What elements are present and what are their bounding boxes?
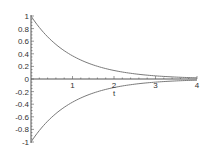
curve-upper xyxy=(31,16,197,78)
axes xyxy=(31,15,197,143)
x-axis-label: t xyxy=(113,89,116,98)
y-tick-label: -0.6 xyxy=(15,113,29,122)
y-tick-label: -0.8 xyxy=(15,125,29,134)
chart-plot: 10.80.60.40.20-0.2-0.4-0.6-0.8-11234t xyxy=(0,0,209,148)
x-tick-label: 4 xyxy=(195,81,200,90)
y-tick-label: 1 xyxy=(25,12,30,21)
y-tick-label: 0.8 xyxy=(18,25,30,34)
y-tick-label: 0 xyxy=(25,75,30,84)
y-tick-label: -0.2 xyxy=(15,88,29,97)
y-tick-label: 0.2 xyxy=(18,62,30,71)
x-tick-label: 3 xyxy=(153,81,158,90)
y-tick-label: -0.4 xyxy=(15,100,29,109)
y-tick-label: 0.4 xyxy=(18,50,30,59)
y-tick-label: 0.6 xyxy=(18,37,30,46)
x-tick-label: 1 xyxy=(70,81,75,90)
y-tick-label: -1 xyxy=(22,138,30,147)
